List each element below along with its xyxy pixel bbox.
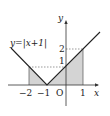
y-tick-1: 1	[59, 56, 65, 66]
y-axis-label: y	[57, 13, 64, 23]
y-tick-2: 2	[59, 44, 65, 54]
x-tick-neg1: −1	[37, 88, 50, 98]
graph-canvas: y=|x+1| y x O −2 −1 1 1 2	[0, 0, 110, 116]
origin-label: O	[56, 88, 63, 98]
y-axis-arrow-icon	[64, 20, 67, 24]
x-axis-arrow-icon	[95, 83, 99, 86]
x-axis-label: x	[94, 88, 99, 98]
x-tick-neg2: −2	[19, 88, 32, 98]
function-label: y=|x+1|	[9, 38, 47, 49]
x-tick-1: 1	[80, 88, 86, 98]
